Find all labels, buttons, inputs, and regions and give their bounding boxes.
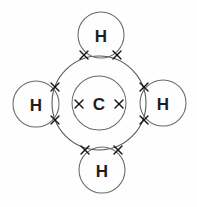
hydrogen-left-label: H (30, 96, 42, 115)
carbon-label: C (93, 95, 105, 114)
cross-bottom-bond-left (81, 146, 89, 154)
cross-top-bond-left (80, 51, 88, 59)
cross-inner-right (115, 100, 123, 108)
diagram-svg: C H H H H (0, 0, 197, 207)
methane-dot-cross-diagram: C H H H H (0, 0, 197, 207)
hydrogen-bottom-label: H (96, 162, 108, 181)
atom-labels-group: C H H H H (30, 27, 169, 181)
hydrogen-top-label: H (95, 27, 107, 46)
hydrogen-right-label: H (157, 95, 169, 114)
cross-inner-left (75, 100, 83, 108)
